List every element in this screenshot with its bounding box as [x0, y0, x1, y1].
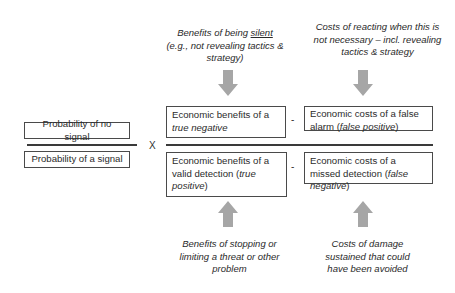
note-underlined-text: silent [251, 27, 273, 38]
main-fraction-bar [166, 144, 433, 146]
note-line: sustained that could [325, 251, 410, 262]
note-line: problem [212, 263, 246, 274]
note-text: (e.g., not revealing tactics & strategy) [166, 40, 283, 64]
note-costs-of-damage: Costs of damage sustained that could hav… [290, 238, 445, 276]
note-line: have been avoided [327, 263, 407, 274]
term-italic: true negative [172, 122, 227, 133]
false-positive-cost-box: Economic costs of a false alarm (false p… [304, 106, 433, 131]
term-suffix: ) [346, 180, 349, 191]
minus-operator-top: - [291, 114, 294, 125]
probability-signal-box: Probability of a signal [24, 151, 130, 168]
false-negative-cost-box: Economic costs of a missed detection (fa… [304, 152, 433, 184]
note-line: Costs of damage [332, 238, 404, 249]
true-positive-benefit-box: Economic benefits of a valid detection (… [166, 152, 287, 197]
note-line: not necessary – incl. revealing [314, 34, 442, 45]
true-negative-benefit-box: Economic benefits of a true negative [166, 106, 286, 138]
note-line: Costs of reacting when this is [316, 21, 440, 32]
multiply-operator: X [149, 140, 156, 151]
probability-no-signal-box: Probability of no signal [24, 122, 130, 139]
arrow-down-icon [218, 70, 238, 96]
note-costs-of-reacting: Costs of reacting when this is not neces… [300, 21, 455, 59]
term-text: Economic benefits of a [172, 109, 269, 120]
term-suffix: ) [205, 180, 208, 191]
term-italic: false positive [340, 121, 395, 132]
note-line: tactics & strategy [341, 46, 413, 57]
note-line: Benefits of stopping or [182, 238, 277, 249]
arrow-up-icon [353, 201, 373, 227]
probability-no-signal-label: Probability of no signal [29, 118, 125, 143]
term-suffix: ) [395, 121, 398, 132]
probability-fraction-bar [27, 144, 137, 146]
arrow-up-icon [218, 201, 238, 227]
note-text: Benefits of being [177, 27, 250, 38]
probability-signal-label: Probability of a signal [31, 153, 122, 166]
term-text: Economic costs of a missed detection ( [310, 155, 396, 179]
note-benefits-of-stopping: Benefits of stopping or limiting a threa… [152, 238, 307, 276]
note-line: limiting a threat or other [180, 251, 280, 262]
note-benefits-of-silence: Benefits of being silent (e.g., not reve… [150, 27, 300, 65]
minus-operator-bottom: - [291, 161, 294, 172]
arrow-down-icon [353, 70, 373, 96]
